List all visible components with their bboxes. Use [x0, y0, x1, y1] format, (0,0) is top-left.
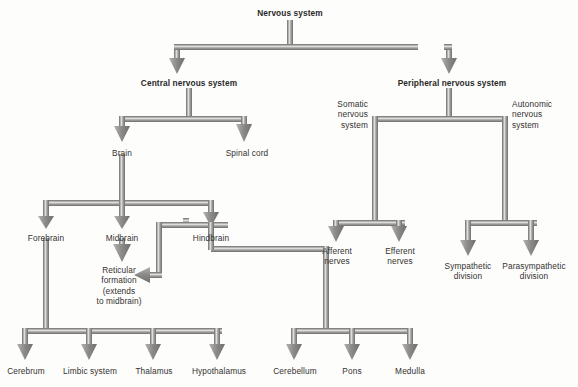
node-hindbrain: Hindbrain [193, 233, 229, 243]
node-reticular-formation: Reticular formation (extends to midbrain… [96, 265, 141, 307]
node-pons: Pons [342, 366, 361, 376]
node-cerebrum: Cerebrum [7, 366, 45, 376]
connector-pipes [0, 0, 578, 387]
node-central-nervous-system: Central nervous system [141, 78, 237, 88]
node-sympathetic-division: Sympathetic division [445, 261, 492, 282]
node-midbrain: Midbrain [106, 233, 139, 243]
node-limbic-system: Limbic system [63, 366, 117, 376]
node-somatic-nervous-system: Somatic nervous system [337, 99, 368, 130]
nervous-system-diagram: Nervous system Central nervous system Pe… [0, 0, 578, 387]
node-medulla: Medulla [395, 366, 425, 376]
node-hypothalamus: Hypothalamus [192, 366, 246, 376]
node-cerebellum: Cerebellum [273, 366, 316, 376]
node-brain: Brain [112, 148, 132, 158]
node-spinal-cord: Spinal cord [226, 148, 269, 158]
node-thalamus: Thalamus [135, 366, 172, 376]
node-efferent-nerves: Efferent nerves [385, 246, 415, 267]
node-forebrain: Forebrain [28, 233, 64, 243]
node-peripheral-nervous-system: Peripheral nervous system [398, 78, 507, 88]
node-parasympathetic-division: Parasympathetic division [502, 261, 565, 282]
node-nervous-system: Nervous system [257, 8, 323, 18]
node-autonomic-nervous-system: Autonomic nervous system [512, 99, 552, 130]
node-afferent-nerves: Afferent nerves [322, 246, 352, 267]
